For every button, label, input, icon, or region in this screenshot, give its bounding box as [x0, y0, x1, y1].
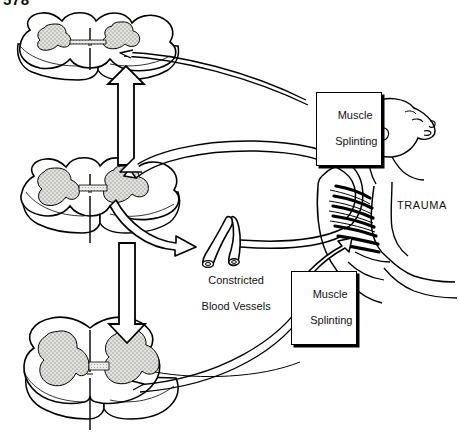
muscle-splinting-upper-line2: Splinting [335, 135, 377, 147]
muscle-splinting-box-lower[interactable]: Muscle Splinting [291, 271, 357, 345]
diagram-canvas: 578 Muscle Splinting Muscle Splinting Co… [0, 0, 459, 434]
trauma-label: TRAUMA [397, 199, 447, 212]
spinal-cord-cross-section-top [18, 13, 179, 80]
arrow-up-middle-to-top [108, 66, 144, 165]
constricted-blood-vessels-icon [203, 217, 241, 268]
spinal-cord-cross-section-middle [21, 158, 180, 243]
muscle-splinting-box-upper[interactable]: Muscle Splinting [316, 92, 382, 166]
muscle-splinting-lower-line1: Muscle [313, 288, 348, 300]
muscle-splinting-lower-line2: Splinting [310, 314, 352, 326]
diagram-artwork [0, 0, 459, 434]
arrow-down-middle-to-bottom [109, 243, 145, 343]
muscle-splinting-upper-line1: Muscle [338, 109, 373, 121]
constricted-line1: Constricted [208, 274, 264, 286]
page-number: 578 [3, 0, 30, 7]
constricted-line2: Blood Vessels [202, 300, 271, 312]
connector-lower-tail [155, 362, 300, 377]
spinal-cord-cross-section-bottom [24, 317, 178, 430]
constricted-blood-vessels-label: Constricted Blood Vessels [175, 261, 285, 326]
